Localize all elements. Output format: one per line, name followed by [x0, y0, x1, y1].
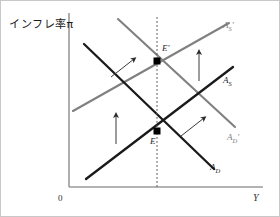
arrow-diagonal-upper-left	[111, 59, 134, 77]
equilibrium-label-e-original-base: E	[150, 136, 156, 146]
curve-label-as-original-sub: S	[229, 80, 232, 87]
curve-ad-original	[84, 44, 214, 169]
curve-label-ad-original-sub: D	[216, 167, 221, 174]
curve-label-as-shifted-prime: '	[232, 20, 234, 30]
equilibrium-label-e-shifted: E'	[162, 43, 169, 53]
equilibrium-marker-e-original	[154, 128, 161, 135]
ad-as-figure: インフレ率π 0 Y AS' AS AD' AD E' E	[0, 0, 280, 217]
curve-label-ad-original: AD	[210, 162, 220, 174]
curve-label-as-original: AS	[223, 75, 232, 87]
equilibrium-marker-e-shifted	[154, 58, 161, 65]
curve-label-ad-shifted-prime: '	[237, 132, 239, 142]
curve-label-ad-shifted: AD'	[227, 132, 239, 144]
arrow-diagonal-lower-right	[181, 118, 204, 136]
equilibrium-label-e-shifted-prime: '	[168, 43, 170, 53]
x-axis-label: Y	[253, 192, 259, 203]
curve-as-shifted	[73, 23, 229, 111]
plot-canvas	[1, 1, 280, 217]
curve-label-as-shifted: AS'	[223, 20, 234, 32]
axes-group	[69, 13, 263, 187]
equilibrium-label-e-original: E	[150, 136, 156, 146]
origin-label: 0	[58, 193, 63, 203]
y-axis-label: インフレ率π	[9, 15, 74, 31]
